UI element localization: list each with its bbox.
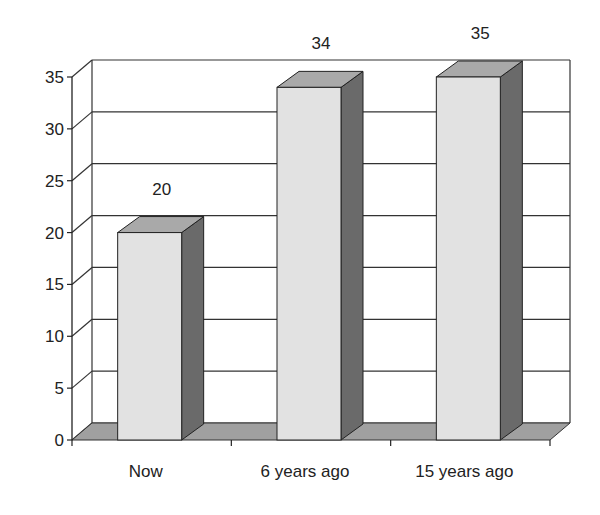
y-tick-label: 10 (45, 327, 64, 346)
gridline-side (72, 267, 92, 284)
bar-front-face (436, 77, 500, 440)
bar (436, 61, 522, 440)
bar-series (118, 61, 523, 440)
y-tick-label: 30 (45, 120, 64, 139)
bar-front-face (277, 87, 341, 440)
y-tick-label: 20 (45, 224, 64, 243)
y-tick-label: 5 (55, 379, 64, 398)
gridline-side (72, 319, 92, 336)
y-tick-label: 35 (45, 68, 64, 87)
gridline-side (72, 216, 92, 233)
x-category-label: Now (129, 462, 164, 481)
gridline-side (72, 371, 92, 388)
gridline-side (72, 112, 92, 129)
data-label: 35 (471, 24, 490, 43)
bar-side-face (341, 71, 363, 440)
y-tick-labels: 05101520253035 (45, 68, 64, 450)
bar-side-face (500, 61, 522, 440)
bar-chart: 05101520253035 Now6 years ago15 years ag… (0, 0, 600, 515)
x-category-label: 15 years ago (415, 462, 513, 481)
x-category-label: 6 years ago (261, 462, 350, 481)
y-tick-label: 0 (55, 431, 64, 450)
bar (277, 71, 363, 440)
bar-front-face (118, 233, 182, 440)
y-tick-label: 15 (45, 275, 64, 294)
bar (118, 217, 204, 440)
gridline-side (72, 60, 92, 77)
data-label: 20 (152, 180, 171, 199)
gridline-side (72, 164, 92, 181)
y-tick-label: 25 (45, 172, 64, 191)
x-category-labels: Now6 years ago15 years ago (129, 462, 514, 481)
data-label: 34 (312, 34, 331, 53)
bar-side-face (182, 217, 204, 440)
